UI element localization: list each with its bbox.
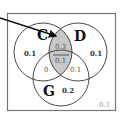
region-value-c-and-g: 0: [44, 66, 48, 74]
region-value-c-and-d: 0.3: [55, 43, 66, 51]
set-label-g: G: [43, 83, 55, 99]
set-label-c: C: [37, 27, 48, 43]
region-value-c-and-d-and-g: 0.1: [55, 57, 66, 65]
region-value-d-only: 0.1: [90, 49, 102, 58]
region-value-g-only: 0.2: [62, 86, 74, 95]
set-label-d: D: [74, 28, 86, 44]
venn-diagram: C D G 0.1 0.1 0.2 0.3 0.1 0 0.1 0.1: [0, 0, 122, 118]
region-value-outside: 0.1: [99, 101, 110, 109]
region-value-c-only: 0.1: [24, 49, 36, 58]
region-value-d-and-g: 0.1: [70, 66, 81, 74]
